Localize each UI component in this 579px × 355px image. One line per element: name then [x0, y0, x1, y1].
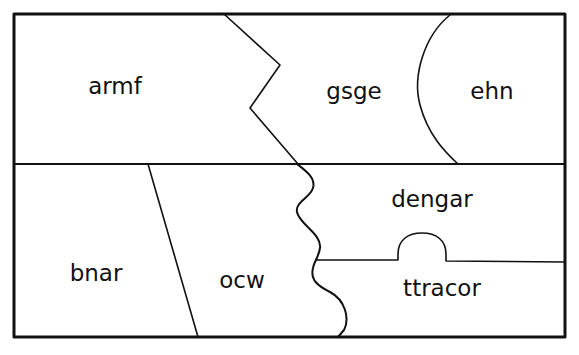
- region-label-ttracor: ttracor: [403, 275, 481, 301]
- region-label-armf: armf: [88, 73, 143, 99]
- outer-frame: [14, 14, 565, 337]
- region-map-diagram: armf gsge ehn bnar ocw dengar ttracor: [0, 0, 579, 355]
- region-label-ocw: ocw: [219, 267, 265, 293]
- ocw-right-border: [297, 164, 347, 337]
- region-label-bnar: bnar: [70, 260, 123, 286]
- region-label-ehn: ehn: [470, 78, 513, 104]
- gsge-ehn-border: [418, 15, 458, 164]
- region-label-dengar: dengar: [391, 186, 473, 212]
- dengar-ttracor-border: [316, 233, 565, 262]
- armf-gsge-border: [224, 14, 298, 164]
- bnar-ocw-border: [148, 164, 198, 337]
- region-label-gsge: gsge: [326, 78, 381, 104]
